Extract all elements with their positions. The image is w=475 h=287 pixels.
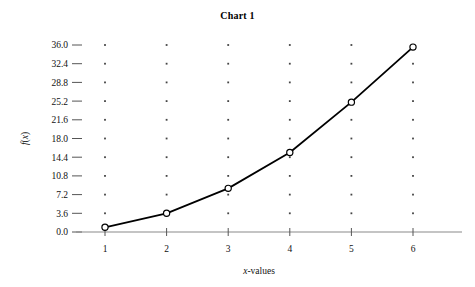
grid-dot-layer: [104, 44, 414, 214]
grid-dot: [412, 156, 414, 158]
data-point-marker: [225, 185, 231, 191]
grid-dot: [351, 175, 353, 177]
y-axis-tick-label: 3.6: [56, 209, 68, 219]
grid-dot: [289, 119, 291, 121]
x-axis-tick-label: 1: [103, 244, 108, 254]
grid-dot: [227, 82, 229, 84]
data-series-markers: [102, 44, 416, 230]
x-axis-tick-label: 2: [164, 244, 169, 254]
grid-dot: [227, 100, 229, 102]
grid-dot: [289, 156, 291, 158]
grid-dot: [289, 194, 291, 196]
grid-dot: [166, 63, 168, 65]
grid-dot: [289, 138, 291, 140]
grid-dot: [104, 194, 106, 196]
grid-dot: [412, 194, 414, 196]
grid-dot: [412, 82, 414, 84]
x-axis-tick-label: 3: [226, 244, 231, 254]
series-polyline: [105, 47, 413, 227]
grid-dot: [104, 82, 106, 84]
grid-dot: [227, 63, 229, 65]
grid-dot: [351, 44, 353, 46]
y-axis-tick-label: 36.0: [51, 40, 68, 50]
y-axis-tick-label: 25.2: [51, 97, 68, 107]
data-point-marker: [102, 224, 108, 230]
grid-dot: [227, 212, 229, 214]
grid-dot: [227, 119, 229, 121]
grid-dot: [104, 119, 106, 121]
y-axis-tick-layer: [72, 45, 82, 232]
grid-dot: [104, 138, 106, 140]
y-axis-label-layer: 0.03.67.210.814.418.021.625.228.832.436.…: [51, 40, 68, 237]
grid-dot: [166, 100, 168, 102]
grid-dot: [412, 175, 414, 177]
grid-dot: [166, 138, 168, 140]
chart-plot-area: 0.03.67.210.814.418.021.625.228.832.436.…: [0, 0, 475, 287]
grid-dot: [227, 194, 229, 196]
y-axis-tick-label: 10.8: [51, 171, 68, 181]
data-point-marker: [410, 44, 416, 50]
data-series-line: [105, 47, 413, 227]
grid-dot: [166, 119, 168, 121]
grid-dot: [166, 44, 168, 46]
grid-dot: [227, 44, 229, 46]
grid-dot: [104, 212, 106, 214]
grid-dot: [351, 119, 353, 121]
grid-dot: [351, 82, 353, 84]
grid-dot: [289, 212, 291, 214]
x-axis-tick-label: 6: [411, 244, 416, 254]
grid-dot: [104, 63, 106, 65]
grid-dot: [227, 156, 229, 158]
grid-dot: [351, 156, 353, 158]
grid-dot: [289, 175, 291, 177]
x-axis-tick-label: 5: [349, 244, 354, 254]
y-axis-title: f(x): [20, 132, 31, 145]
y-axis-tick-label: 7.2: [56, 190, 68, 200]
y-axis-tick-label: 28.8: [51, 78, 68, 88]
grid-dot: [412, 138, 414, 140]
y-axis-tick-label: 0.0: [56, 227, 68, 237]
grid-dot: [104, 156, 106, 158]
y-axis-tick-label: 21.6: [51, 115, 68, 125]
grid-dot: [166, 156, 168, 158]
grid-dot: [289, 63, 291, 65]
grid-dot: [351, 212, 353, 214]
x-axis-tick-label: 4: [287, 244, 292, 254]
data-point-marker: [348, 99, 354, 105]
grid-dot: [166, 175, 168, 177]
grid-dot: [289, 44, 291, 46]
y-axis-tick-label: 32.4: [51, 59, 68, 69]
data-point-marker: [287, 149, 293, 155]
grid-dot: [289, 100, 291, 102]
grid-dot: [351, 138, 353, 140]
chart-figure: Chart 1 0.03.67.210.814.418.021.625.228.…: [0, 0, 475, 287]
grid-dot: [227, 138, 229, 140]
grid-dot: [166, 194, 168, 196]
data-point-marker: [164, 210, 170, 216]
y-axis-tick-label: 18.0: [51, 134, 68, 144]
y-axis-tick-label: 14.4: [51, 153, 68, 163]
grid-dot: [351, 63, 353, 65]
grid-dot: [104, 175, 106, 177]
x-axis-label-layer: 123456: [103, 244, 416, 254]
grid-dot: [351, 194, 353, 196]
x-axis-title: x-values: [242, 266, 275, 276]
grid-dot: [104, 100, 106, 102]
grid-dot: [412, 119, 414, 121]
grid-dot: [289, 82, 291, 84]
grid-dot: [412, 212, 414, 214]
grid-dot: [227, 175, 229, 177]
grid-dot: [104, 44, 106, 46]
grid-dot: [166, 82, 168, 84]
grid-dot: [412, 63, 414, 65]
grid-dot: [412, 100, 414, 102]
